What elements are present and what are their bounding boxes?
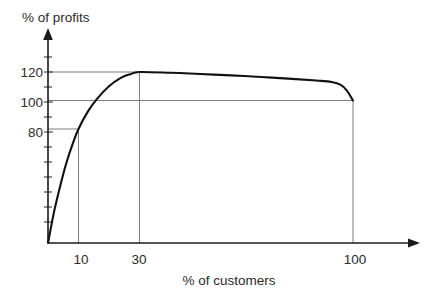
chart-canvas: 120 100 80 10 30 100 % of profits % of c… xyxy=(0,0,447,296)
profit-curve xyxy=(48,72,353,243)
y-tick-label-100: 100 xyxy=(20,95,43,110)
y-tick-label-80: 80 xyxy=(28,125,43,140)
y-tick-label-120: 120 xyxy=(20,65,43,80)
x-tick-label-30: 30 xyxy=(131,252,146,267)
x-axis-arrow-icon xyxy=(408,238,420,247)
x-tick-label-10: 10 xyxy=(73,252,88,267)
x-tick-label-100: 100 xyxy=(344,252,367,267)
x-axis-title: % of customers xyxy=(182,273,275,288)
whale-curve-chart: 120 100 80 10 30 100 % of profits % of c… xyxy=(0,0,447,296)
y-axis-arrow-icon xyxy=(43,28,53,40)
y-axis-title: % of profits xyxy=(22,10,90,25)
